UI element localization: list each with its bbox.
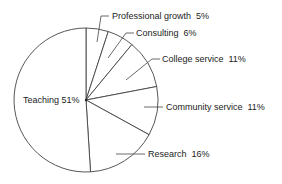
label-research: Research 16% xyxy=(148,149,210,159)
center-point xyxy=(85,99,87,101)
label-consulting: Consulting 6% xyxy=(136,28,197,38)
pie-chart: Professional growth 5% Consulting 6% Col… xyxy=(0,0,282,184)
label-college-service: College service 11% xyxy=(162,54,246,64)
label-teaching: Teaching 51% xyxy=(23,95,80,105)
label-professional-growth: Professional growth 5% xyxy=(112,11,209,21)
label-community-service: Community service 11% xyxy=(166,102,265,112)
